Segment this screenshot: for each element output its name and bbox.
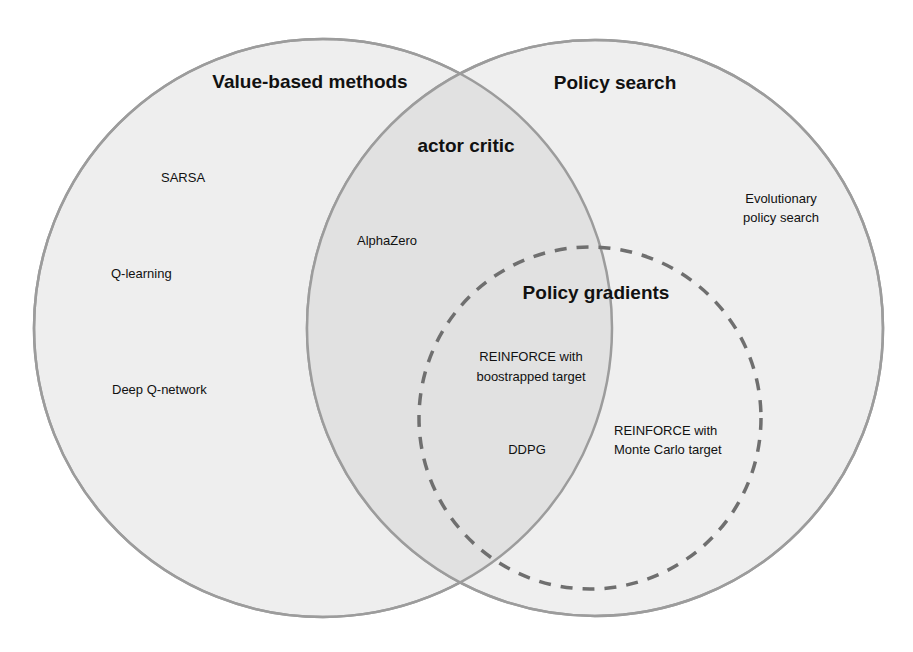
policy-gradients-title: Policy gradients [523,282,670,303]
item-reinforce-monte-carlo-line2: Monte Carlo target [614,442,722,457]
item-reinforce-bootstrapped-line1: REINFORCE with [479,349,582,364]
venn-diagram: Value-based methods Policy search actor … [0,0,913,652]
item-sarsa: SARSA [161,170,205,185]
item-q-learning: Q-learning [111,266,172,281]
item-alphazero: AlphaZero [357,233,417,248]
value-based-methods-title: Value-based methods [212,71,407,92]
item-reinforce-bootstrapped-line2: boostrapped target [476,369,586,384]
item-evolutionary-policy-search-line1: Evolutionary [745,191,817,206]
item-ddpg: DDPG [508,442,546,457]
item-evolutionary-policy-search-line2: policy search [743,210,819,225]
item-reinforce-monte-carlo-line1: REINFORCE with [614,423,717,438]
item-deep-q-network: Deep Q-network [112,382,207,397]
policy-search-title: Policy search [554,72,677,93]
actor-critic-title: actor critic [417,135,515,156]
